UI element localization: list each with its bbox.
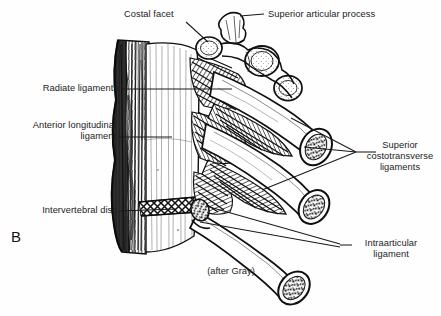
rib-lower <box>190 212 316 311</box>
label-anterior-longitudinal-ligament: Anterior longitudinal ligament <box>14 120 116 142</box>
transverse-process-facet-upper <box>245 46 279 76</box>
panel-letter: B <box>11 228 21 245</box>
anterior-longitudinal-ligament-band <box>112 40 151 254</box>
leader-costal-facet <box>186 22 208 42</box>
label-superior-articular-process: Superior articular process <box>268 9 418 20</box>
label-intervertebral-disc: Intervertebral disc <box>22 205 117 216</box>
figure-credit: (after Gray) <box>176 266 286 276</box>
costal-facet <box>196 37 222 59</box>
label-superior-costotransverse-ligaments: Superior costotransverse ligaments <box>360 140 440 174</box>
transverse-process-facet-lower <box>274 76 302 101</box>
label-radiate-ligaments: Radiate ligaments <box>28 83 118 94</box>
label-costal-facet: Costal facet <box>124 9 194 20</box>
anatomy-figure: Costal facet Superior articular process … <box>0 0 441 316</box>
leader-superior-articular-process <box>240 14 264 16</box>
label-intraarticular-ligament: Intraarticular ligament <box>350 238 432 260</box>
